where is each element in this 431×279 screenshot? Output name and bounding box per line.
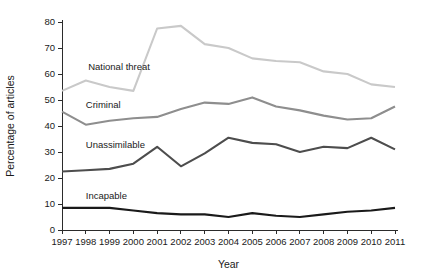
y-tick-label: 70 xyxy=(44,42,55,53)
y-axis-title: Percentage of articles xyxy=(4,75,16,177)
y-tick-label: 60 xyxy=(44,68,55,79)
x-tick-label: 2007 xyxy=(289,236,310,247)
x-tick-label: 2010 xyxy=(361,236,382,247)
x-tick-label: 1998 xyxy=(75,236,96,247)
x-tick-label: 2003 xyxy=(194,236,215,247)
x-tick-label: 2008 xyxy=(313,236,334,247)
x-tick-label: 2011 xyxy=(385,236,405,247)
y-tick-label: 50 xyxy=(44,94,55,105)
x-tick-label: 2006 xyxy=(266,236,287,247)
y-tick-label: 40 xyxy=(44,120,55,131)
series-line xyxy=(62,208,395,217)
y-tick-label: 10 xyxy=(44,198,55,209)
x-tick-label: 2004 xyxy=(218,236,239,247)
x-tick-label: 2009 xyxy=(337,236,358,247)
y-axis-ticks: 01020304050607080 xyxy=(44,16,62,235)
series-label: Incapable xyxy=(86,190,127,201)
y-tick-label: 30 xyxy=(44,146,55,157)
x-tick-label: 1997 xyxy=(51,236,72,247)
x-tick-label: 1999 xyxy=(99,236,120,247)
x-axis-ticks: 1997199819992000200120022003200420052006… xyxy=(51,230,405,247)
x-tick-label: 2000 xyxy=(123,236,144,247)
series-lines xyxy=(62,26,395,217)
chart-canvas: 01020304050607080 1997199819992000200120… xyxy=(0,0,431,279)
x-tick-label: 2001 xyxy=(147,236,168,247)
x-tick-label: 2005 xyxy=(242,236,263,247)
line-chart: 01020304050607080 1997199819992000200120… xyxy=(0,0,431,279)
series-label: Criminal xyxy=(86,99,121,110)
x-tick-label: 2002 xyxy=(170,236,191,247)
x-axis-title: Year xyxy=(218,258,240,270)
y-tick-label: 80 xyxy=(44,16,55,27)
series-label: Unassimilable xyxy=(86,139,145,150)
y-tick-label: 20 xyxy=(44,172,55,183)
series-inline-labels: National threatCriminalUnassimilableInca… xyxy=(86,61,151,201)
y-tick-label: 0 xyxy=(50,224,55,235)
series-label: National threat xyxy=(88,61,150,72)
series-line xyxy=(62,26,395,91)
